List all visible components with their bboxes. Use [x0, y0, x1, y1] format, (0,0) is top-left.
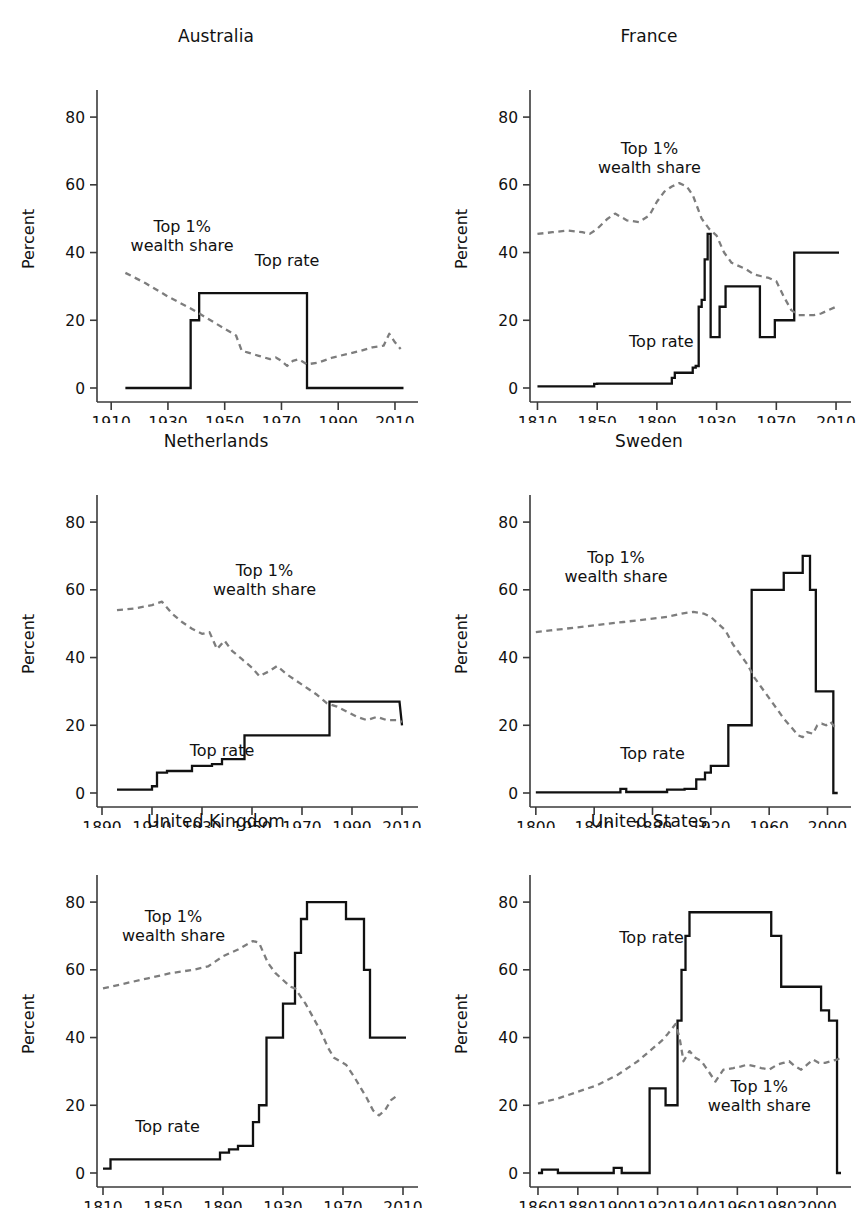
y-tick-label: 40 — [498, 244, 518, 262]
x-tick-label: 1810 — [83, 1199, 122, 1208]
chart-panel-netherlands: Netherlands02040608018901910193019501970… — [0, 423, 432, 828]
series-line-wealth-share — [537, 183, 836, 315]
y-tick-label: 0 — [75, 785, 85, 803]
x-tick-label: 1930 — [697, 414, 736, 423]
x-tick-label: 2010 — [383, 1199, 422, 1208]
annotation-line: wealth share — [122, 926, 225, 945]
x-tick-label: 1930 — [148, 414, 187, 423]
annotation-line: Top rate — [628, 332, 694, 351]
x-tick-label: 1960 — [718, 1199, 757, 1208]
series-line-top-rate — [538, 912, 841, 1173]
x-tick-label: 1910 — [91, 414, 130, 423]
x-tick-label: 1990 — [318, 414, 357, 423]
y-tick-label: 60 — [498, 176, 518, 194]
annotation-line: Top 1% — [235, 561, 293, 580]
panel-plot: 020406080180018401880192019602000Percent… — [433, 423, 865, 828]
x-tick-label: 1850 — [577, 414, 616, 423]
series-line-wealth-share — [117, 602, 402, 722]
y-tick-label: 20 — [498, 312, 518, 330]
figure-root: Australia0204060801910193019501970199020… — [0, 0, 865, 1216]
annotation-line: wealth share — [213, 580, 316, 599]
series-annotation: Top 1%wealth share — [131, 217, 234, 255]
x-tick-label: 1810 — [518, 414, 557, 423]
annotation-line: wealth share — [708, 1096, 811, 1115]
x-tick-label: 1860 — [518, 1199, 557, 1208]
panel-title: France — [433, 26, 865, 46]
y-tick-label: 40 — [65, 244, 85, 262]
chart-panel-sweden: Sweden020406080180018401880192019602000P… — [433, 423, 865, 828]
y-tick-label: 0 — [508, 380, 518, 398]
series-annotation: Top 1%wealth share — [122, 907, 225, 945]
x-tick-label: 1850 — [143, 1199, 182, 1208]
y-tick-label: 60 — [65, 176, 85, 194]
panel-plot: 020406080191019301950197019902010Percent… — [0, 18, 432, 423]
y-tick-label: 20 — [498, 717, 518, 735]
y-tick-label: 60 — [498, 961, 518, 979]
series-line-wealth-share — [538, 1024, 841, 1104]
panel-plot: 0204060801860188019001920194019601980200… — [433, 803, 865, 1208]
y-tick-label: 40 — [65, 1029, 85, 1047]
panel-title: Sweden — [433, 431, 865, 451]
y-tick-label: 40 — [498, 649, 518, 667]
x-tick-label: 1970 — [323, 1199, 362, 1208]
annotation-line: wealth share — [565, 567, 668, 586]
y-tick-label: 60 — [498, 581, 518, 599]
series-line-top-rate — [536, 556, 838, 793]
series-line-wealth-share — [103, 941, 396, 1115]
series-line-top-rate — [117, 702, 402, 790]
y-axis-label: Percent — [452, 209, 471, 269]
series-annotation: Top rate — [134, 1117, 200, 1136]
panel-plot: 0204060801890191019301950197019902010Per… — [0, 423, 432, 828]
annotation-line: Top rate — [618, 928, 684, 947]
panel-title: United States — [433, 811, 865, 831]
panel-title: Netherlands — [0, 431, 432, 451]
x-tick-label: 1970 — [757, 414, 796, 423]
y-tick-label: 20 — [65, 312, 85, 330]
y-tick-label: 80 — [498, 514, 518, 532]
annotation-line: wealth share — [598, 158, 701, 177]
series-annotation: Top 1%wealth share — [565, 548, 668, 586]
y-tick-label: 80 — [65, 109, 85, 127]
x-tick-label: 1940 — [678, 1199, 717, 1208]
y-tick-label: 80 — [498, 894, 518, 912]
y-tick-label: 40 — [65, 649, 85, 667]
y-tick-label: 80 — [65, 514, 85, 532]
series-annotation: Top rate — [628, 332, 694, 351]
y-tick-label: 0 — [75, 1165, 85, 1183]
y-tick-label: 60 — [65, 961, 85, 979]
x-tick-label: 2000 — [797, 1199, 836, 1208]
annotation-line: Top 1% — [144, 907, 202, 926]
x-tick-label: 1930 — [263, 1199, 302, 1208]
annotation-line: Top rate — [254, 251, 320, 270]
series-annotation: Top 1%wealth share — [598, 139, 701, 177]
series-line-top-rate — [125, 293, 403, 388]
series-annotation: Top rate — [254, 251, 320, 270]
y-tick-label: 80 — [65, 894, 85, 912]
x-tick-label: 1890 — [637, 414, 676, 423]
y-tick-label: 80 — [498, 109, 518, 127]
annotation-line: Top rate — [189, 741, 255, 760]
series-line-wealth-share — [536, 612, 838, 737]
annotation-line: Top 1% — [620, 139, 678, 158]
series-annotation: Top rate — [618, 928, 684, 947]
y-tick-label: 20 — [65, 717, 85, 735]
x-tick-label: 1970 — [262, 414, 301, 423]
x-tick-label: 1900 — [598, 1199, 637, 1208]
annotation-line: Top 1% — [730, 1077, 788, 1096]
panel-title: Australia — [0, 26, 432, 46]
y-tick-label: 20 — [498, 1097, 518, 1115]
y-tick-label: 0 — [75, 380, 85, 398]
annotation-line: Top 1% — [152, 217, 210, 236]
y-tick-label: 60 — [65, 581, 85, 599]
series-annotation: Top rate — [189, 741, 255, 760]
series-annotation: Top 1%wealth share — [213, 561, 316, 599]
annotation-line: Top rate — [134, 1117, 200, 1136]
x-tick-label: 1920 — [638, 1199, 677, 1208]
x-tick-label: 1980 — [757, 1199, 796, 1208]
series-line-top-rate — [537, 234, 839, 386]
y-tick-label: 40 — [498, 1029, 518, 1047]
y-axis-label: Percent — [452, 994, 471, 1054]
chart-panel-united-states: United States020406080186018801900192019… — [433, 803, 865, 1208]
panel-title: United Kingdom — [0, 811, 432, 831]
x-tick-label: 1890 — [203, 1199, 242, 1208]
